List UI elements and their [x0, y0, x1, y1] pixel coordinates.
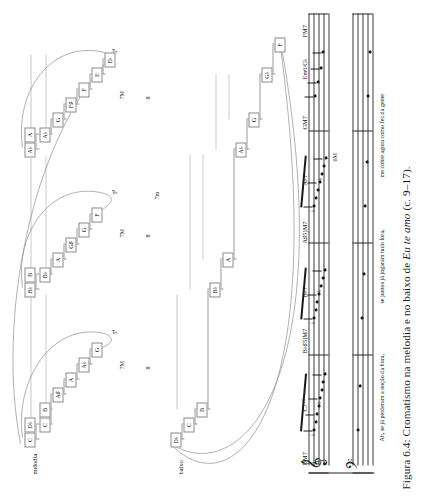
row-label-melody: melodia — [30, 453, 37, 474]
bracket-label: 5ª — [110, 329, 117, 334]
bass-note: B — [196, 402, 207, 417]
interval-label: 8 — [143, 366, 150, 369]
caption-title: Eu te amo — [399, 213, 411, 259]
melody-note: A♭ — [78, 357, 89, 372]
interval-label: 7M — [117, 360, 124, 369]
melody-note: A — [24, 127, 35, 142]
melody-note: E♭ — [104, 52, 115, 67]
melody-note: C — [39, 417, 50, 432]
lyric-line: se juntos já jogaram tudo fora, — [378, 229, 384, 303]
treble-clef-icon: 𝄞 — [302, 456, 324, 469]
row-label-bass: baixo — [176, 460, 183, 474]
bass-note: A — [222, 252, 233, 267]
melody-note: B♭ — [39, 267, 50, 282]
figure-caption: Figura 6.4: Cromatismo na melodia e no b… — [399, 9, 411, 489]
lyric-line: Ah, se já perderam a noção da hora, — [378, 354, 384, 441]
lyric-line: me cobre agora como fez da gente — [378, 93, 384, 177]
bass-clef-icon: 𝄢 — [344, 457, 362, 469]
bass-note: F — [274, 37, 285, 52]
chord-symbol: B♭♯5)M7 — [300, 328, 308, 353]
melody-note: F — [91, 207, 102, 222]
melody-note: G — [78, 222, 89, 237]
bass-staff: 𝄢 — [352, 13, 374, 465]
chord-symbol: Em6/G♭ — [300, 58, 308, 79]
melody-note: G — [52, 112, 63, 127]
interval-label: 7M — [117, 228, 124, 237]
bass-note: A♭ — [235, 142, 246, 157]
interval-label: 7M — [117, 90, 124, 99]
melody-note: B — [39, 402, 50, 417]
melody-note: B♭ — [24, 282, 35, 297]
score-excerpt: DM7 C7⁺⁵ B♭♯5)M7 B♭7 A♯5)M7 A♭7 GM7 Em6/… — [300, 7, 396, 491]
bass-note: G — [248, 112, 259, 127]
chord-symbol: A♯5)M7 — [300, 221, 307, 243]
melody-note: F♯ — [65, 97, 76, 112]
caption-suffix: (c. 9–17). — [399, 166, 411, 213]
melody-note: C — [24, 432, 35, 447]
melody-note: A♯ — [52, 387, 63, 402]
figure-stage: Figura 6.4: Cromatismo na melodia e no b… — [0, 0, 430, 499]
treble-staff: 𝄞 — [308, 13, 342, 465]
bass-note: D♭ — [170, 432, 181, 447]
melody-note: G — [91, 342, 102, 357]
chord-symbol: FM7 — [300, 25, 307, 37]
chord-symbol: GM7 — [300, 116, 307, 130]
caption-prefix: Figura 6.4: Cromatismo na melodia e no b… — [399, 259, 411, 489]
figure-frame: Figura 6.4: Cromatismo na melodia e no b… — [0, 0, 430, 499]
interval-label: 8 — [143, 234, 150, 237]
melody-note: B — [24, 267, 35, 282]
melody-note: A — [52, 252, 63, 267]
bass-note: C — [183, 417, 194, 432]
melody-note: D♭ — [24, 417, 35, 432]
bass-note: B♭ — [209, 282, 220, 297]
lyrics-row: Ah, se já perderam a noção da hora, se j… — [378, 13, 388, 465]
melody-note: A♭ — [24, 142, 35, 157]
melody-note: F — [78, 82, 89, 97]
melody-note: G♯ — [65, 237, 76, 252]
melody-note: A♭ — [39, 127, 50, 142]
outer-melody-interval-label: 7m — [152, 191, 159, 199]
interval-label: 8 — [143, 96, 150, 99]
melody-note: E — [91, 67, 102, 82]
bracket-label: 5ª — [110, 189, 117, 194]
melody-note: A — [65, 372, 76, 387]
bass-note: G♭ — [261, 67, 272, 82]
